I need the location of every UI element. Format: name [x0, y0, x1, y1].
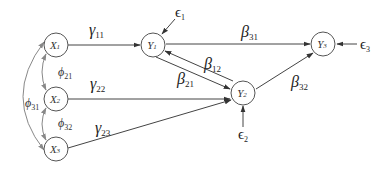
covariance-phi32-curve: [42, 108, 46, 140]
label-beta12: β12: [203, 55, 221, 74]
node-x3: X3: [44, 137, 68, 161]
label-beta21: β21: [176, 70, 194, 89]
label-phi31: ϕ31: [25, 96, 39, 112]
covariance-phi21-curve: [42, 54, 46, 90]
node-y1: Y1: [141, 33, 165, 57]
node-x2: X2: [44, 87, 68, 111]
path-diagram: X1 X2 X3 Y1 Y2 Y3 γ11 γ22 γ23 β31 β12 β2…: [0, 0, 392, 171]
label-beta31: β31: [240, 23, 258, 42]
label-gamma23: γ23: [95, 119, 111, 138]
label-error-e3: ϵ3: [360, 36, 370, 54]
label-phi32: ϕ32: [58, 116, 72, 132]
path-gamma23-arrow: [68, 100, 231, 148]
error-e1-arrow: [162, 19, 175, 34]
label-error-e2: ϵ2: [238, 126, 248, 144]
label-beta32: β32: [290, 73, 308, 92]
node-y3: Y3: [311, 32, 335, 56]
label-gamma11: γ11: [89, 21, 104, 40]
label-gamma22: γ22: [90, 75, 105, 94]
node-y2: Y2: [231, 81, 255, 105]
path-beta12-arrow: [165, 51, 233, 81]
node-x1: X1: [44, 33, 68, 57]
label-phi21: ϕ21: [58, 65, 72, 81]
label-error-e1: ϵ1: [175, 4, 185, 22]
